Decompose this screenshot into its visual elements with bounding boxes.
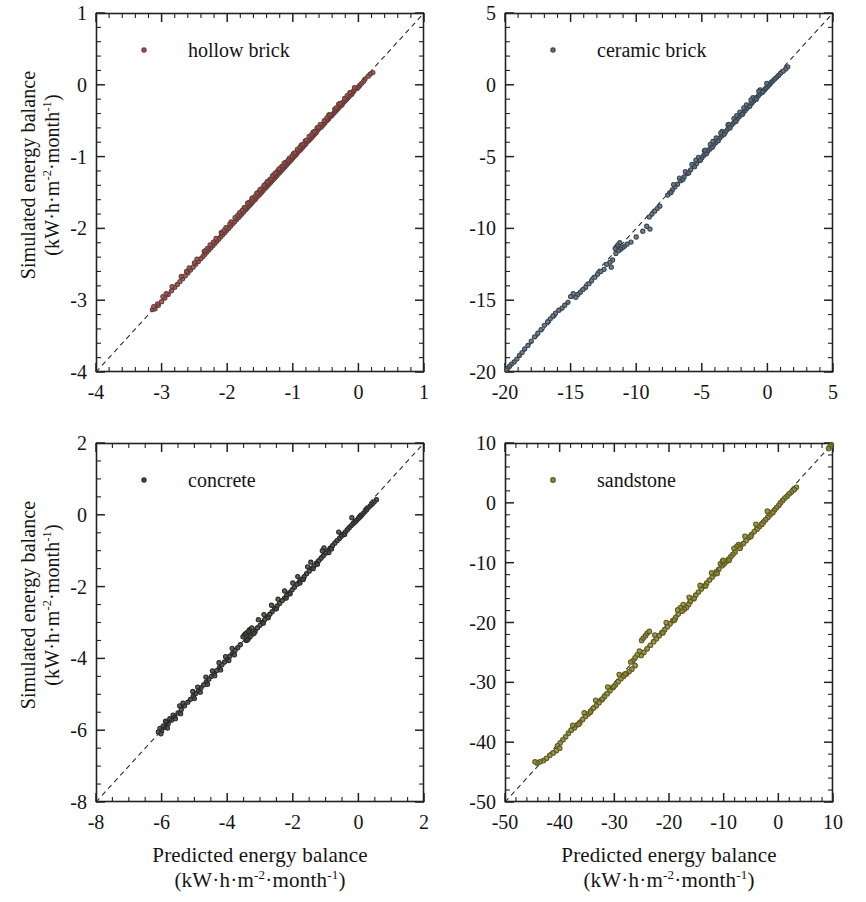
- data-point: [311, 567, 315, 571]
- data-point: [169, 289, 173, 293]
- x-tick-label: -20: [656, 811, 683, 833]
- data-point: [749, 534, 754, 539]
- y-axis-title-bottom: Simulated energy balance (kW·h·m-2·month…: [16, 440, 64, 770]
- data-point: [205, 246, 209, 250]
- data-point: [641, 229, 645, 233]
- scatter-plot-hollow-brick: -4-3-2-101-4-3-2-101hollow brick: [96, 13, 424, 372]
- y-tick-label: 0: [77, 74, 87, 96]
- data-point: [205, 682, 209, 686]
- data-point: [298, 581, 302, 585]
- data-point: [252, 631, 256, 635]
- data-point: [539, 328, 543, 332]
- data-point: [628, 660, 633, 665]
- data-point: [536, 331, 540, 335]
- data-point: [694, 158, 698, 162]
- data-point: [236, 213, 240, 217]
- data-point: [325, 116, 329, 120]
- data-point: [245, 201, 249, 205]
- scatter-plot-sandstone: -50-40-30-20-10010-50-40-30-20-10010sand…: [505, 443, 833, 802]
- data-point: [587, 282, 591, 286]
- panel-sandstone: -50-40-30-20-10010-50-40-30-20-10010sand…: [505, 443, 833, 802]
- legend-marker: [551, 48, 555, 52]
- data-point: [246, 629, 250, 633]
- data-point: [681, 177, 685, 181]
- x-tick-label: -4: [88, 381, 105, 403]
- data-point: [276, 597, 280, 601]
- y-tick-label: 0: [77, 504, 87, 526]
- y-tick-label: -4: [70, 361, 87, 383]
- data-point: [569, 295, 573, 299]
- data-point: [343, 532, 347, 536]
- data-point: [217, 661, 221, 665]
- data-point: [277, 167, 281, 171]
- data-point: [687, 171, 691, 175]
- legend-label: concrete: [188, 469, 256, 491]
- data-point: [529, 339, 533, 343]
- data-point-group: [504, 65, 790, 372]
- x-axis-title-main-left: Predicted energy balance: [152, 843, 367, 867]
- data-point: [230, 646, 234, 650]
- y-tick-label: -4: [70, 647, 87, 669]
- data-point: [709, 571, 714, 576]
- data-point: [611, 684, 616, 689]
- data-point: [546, 320, 550, 324]
- x-tick-label: 5: [828, 381, 838, 403]
- data-point: [771, 510, 776, 515]
- x-tick-label: -2: [284, 811, 301, 833]
- data-point: [334, 106, 338, 110]
- data-point: [734, 114, 738, 118]
- data-point: [719, 131, 723, 135]
- x-tick-label: 2: [419, 811, 429, 833]
- y-tick-label: 5: [486, 2, 496, 24]
- y-axis-title-main-top: Simulated energy balance: [17, 71, 39, 280]
- data-point: [159, 732, 163, 736]
- x-tick-label: -30: [601, 811, 628, 833]
- x-tick-label: -2: [219, 381, 236, 403]
- data-point: [671, 183, 675, 187]
- x-tick-label: -15: [557, 381, 584, 403]
- data-point: [350, 516, 354, 520]
- y-tick-label: -6: [70, 719, 87, 741]
- data-point: [173, 717, 177, 721]
- data-point: [542, 323, 546, 327]
- data-point: [269, 603, 273, 607]
- y-tick-label: 2: [77, 432, 87, 454]
- legend-marker: [142, 478, 146, 482]
- data-point: [291, 581, 295, 585]
- data-point: [757, 89, 761, 93]
- data-point: [168, 717, 172, 721]
- y-tick-label: -20: [469, 612, 496, 634]
- data-point: [716, 139, 720, 143]
- data-point: [179, 712, 183, 716]
- data-point: [743, 534, 748, 539]
- data-point: [623, 672, 628, 677]
- data-point: [337, 530, 341, 534]
- legend-marker: [142, 48, 146, 52]
- data-point: [826, 446, 831, 451]
- data-point: [526, 343, 530, 347]
- data-point: [283, 589, 287, 593]
- data-point: [265, 180, 269, 184]
- data-point: [196, 685, 200, 689]
- data-point: [669, 190, 673, 194]
- panel-ceramic-brick: -20-15-10-505-20-15-10-505ceramic brick: [505, 13, 833, 372]
- y-tick-label: -30: [469, 671, 496, 693]
- data-point: [204, 675, 208, 679]
- data-point: [240, 208, 244, 212]
- data-point: [754, 522, 759, 527]
- panel-concrete: -8-6-4-202-8-6-4-202concrete: [96, 443, 424, 802]
- y-axis-title-unit-top: (kW·h·m-2·month-1): [40, 10, 64, 340]
- data-point: [165, 726, 169, 730]
- data-point: [198, 690, 202, 694]
- data-point: [152, 305, 156, 309]
- y-tick-label: -8: [70, 791, 87, 813]
- data-point: [588, 710, 593, 715]
- data-point: [710, 145, 714, 149]
- data-point: [245, 638, 249, 642]
- data-point: [305, 565, 309, 569]
- x-tick-label: 10: [823, 811, 843, 833]
- y-tick-label: -2: [70, 217, 87, 239]
- figure-root: -4-3-2-101-4-3-2-101hollow brick -20-15-…: [0, 0, 866, 902]
- data-point: [652, 633, 657, 638]
- data-point: [703, 584, 708, 589]
